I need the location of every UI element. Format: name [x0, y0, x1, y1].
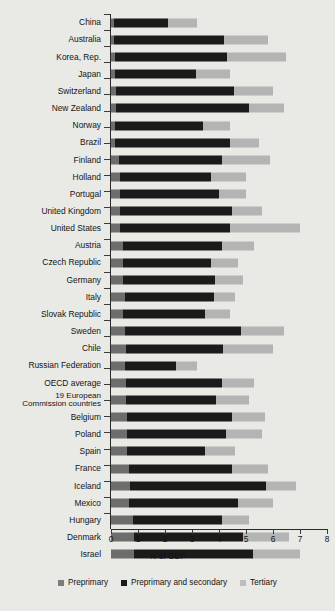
bar-segment-preprimary-and-secondary [125, 361, 176, 370]
bar-row [111, 220, 327, 237]
bar-segment-preprimary-and-secondary [115, 121, 203, 130]
y-axis-tick [104, 62, 110, 63]
bar-segment-preprimary-and-secondary [115, 52, 227, 61]
bar-segment-preprimary [111, 516, 133, 525]
bar-row [111, 494, 327, 511]
bar-segment-preprimary-and-secondary [127, 413, 232, 422]
x-axis-tick-label: 7 [298, 534, 303, 544]
bar-segment-preprimary [111, 464, 129, 473]
bar-segment-preprimary [111, 310, 123, 319]
stacked-bar [111, 481, 296, 490]
bar-segment-tertiary [215, 275, 243, 284]
y-axis-tick [104, 30, 110, 31]
bar-segment-preprimary-and-secondary [126, 378, 222, 387]
bar-segment-tertiary [224, 35, 267, 44]
plot-area [111, 14, 327, 529]
legend-label: Preprimary and secondary [131, 578, 227, 587]
bar-segment-tertiary [230, 224, 300, 233]
category-label: Slovak Republic [0, 306, 106, 323]
category-label: Mexico [0, 494, 106, 511]
y-axis-tick [104, 384, 110, 385]
bar-segment-preprimary [111, 190, 120, 199]
bar-segment-tertiary [227, 52, 286, 61]
y-axis-ticks [104, 14, 110, 529]
bar-segment-tertiary [222, 241, 254, 250]
legend-item[interactable]: Preprimary and secondary [121, 578, 227, 587]
y-axis-tick [104, 400, 110, 401]
category-label: Iceland [0, 477, 106, 494]
bar-segment-tertiary [211, 172, 246, 181]
y-axis-tick [104, 288, 110, 289]
bar-segment-preprimary [111, 293, 125, 302]
stacked-bar [111, 121, 230, 130]
legend-swatch-icon [58, 580, 64, 586]
x-axis-tick-label: 0 [109, 534, 114, 544]
x-axis-tick-label: 3 [190, 534, 195, 544]
legend-item[interactable]: Tertiary [240, 578, 277, 587]
bar-row [111, 254, 327, 271]
bar-segment-preprimary-and-secondary [120, 172, 210, 181]
bar-row [111, 168, 327, 185]
y-axis-tick [104, 336, 110, 337]
category-label: Japan [0, 65, 106, 82]
legend-label: Preprimary [68, 578, 108, 587]
stacked-bar [111, 275, 243, 284]
bar-segment-preprimary-and-secondary [130, 481, 266, 490]
bar-segment-preprimary [111, 498, 129, 507]
legend-item[interactable]: Preprimary [58, 578, 108, 587]
bar-segment-preprimary-and-secondary [127, 447, 205, 456]
bar-row [111, 65, 327, 82]
bar-row [111, 460, 327, 477]
bar-row [111, 289, 327, 306]
stacked-bar [111, 207, 262, 216]
stacked-bar [111, 241, 254, 250]
stacked-bar [111, 35, 268, 44]
bar-row [111, 14, 327, 31]
category-label: Australia [0, 31, 106, 48]
bar-segment-preprimary-and-secondary [120, 207, 232, 216]
y-axis-tick [104, 255, 110, 256]
category-label: United Kingdom [0, 203, 106, 220]
bar-segment-preprimary [111, 172, 120, 181]
bar-segment-preprimary-and-secondary [119, 155, 222, 164]
bar-segment-tertiary [223, 344, 273, 353]
category-label: Sweden [0, 323, 106, 340]
bar-segment-preprimary [111, 396, 126, 405]
bar-row [111, 323, 327, 340]
x-axis-tick-labels: 012345678 [111, 534, 328, 546]
x-axis-title: % of GDP [0, 551, 335, 561]
bar-segment-tertiary [232, 207, 262, 216]
bar-segment-tertiary [241, 327, 284, 336]
y-axis-tick [104, 78, 110, 79]
legend-label: Tertiary [250, 578, 277, 587]
y-axis-tick [104, 111, 110, 112]
stacked-bar [111, 190, 246, 199]
bar-segment-preprimary [111, 481, 130, 490]
bar-segment-tertiary [266, 481, 296, 490]
category-label: Portugal [0, 186, 106, 203]
bar-row [111, 100, 327, 117]
category-label: 19 European Commission countries [0, 391, 106, 408]
category-label: New Zealand [0, 100, 106, 117]
bar-segment-tertiary [238, 498, 273, 507]
category-label: Holland [0, 168, 106, 185]
bar-segment-preprimary-and-secondary [120, 224, 229, 233]
bar-segment-preprimary [111, 207, 120, 216]
bar-segment-preprimary-and-secondary [126, 344, 223, 353]
category-label: Korea, Rep. [0, 48, 106, 65]
y-axis-tick [104, 223, 110, 224]
stacked-bar [111, 361, 197, 370]
category-label: Germany [0, 271, 106, 288]
bar-segment-preprimary-and-secondary [126, 396, 216, 405]
bar-segment-preprimary-and-secondary [116, 104, 248, 113]
bar-segment-preprimary-and-secondary [120, 190, 219, 199]
y-axis-tick [104, 94, 110, 95]
y-axis-tick [104, 416, 110, 417]
category-label: United States [0, 220, 106, 237]
category-label: Finland [0, 151, 106, 168]
x-axis-tick-label: 6 [271, 534, 276, 544]
bar-segment-tertiary [205, 310, 229, 319]
bar-row [111, 117, 327, 134]
bar-segment-tertiary [226, 430, 262, 439]
bar-row [111, 357, 327, 374]
